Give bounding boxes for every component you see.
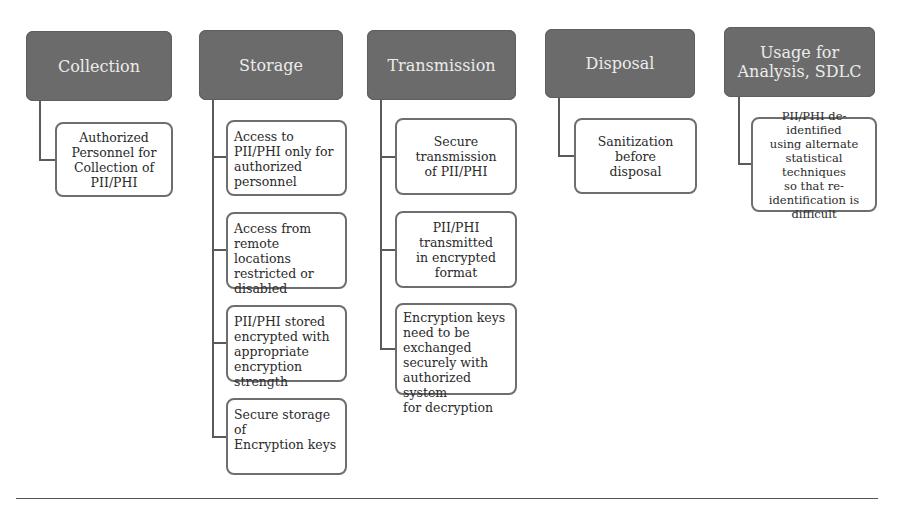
connector-disposal-vertical [558,98,560,157]
collection-item-authorized-personnel: Authorized Personnel for Collection of P… [55,122,173,197]
connector-transmission-3 [380,348,396,350]
connector-transmission-vertical [380,100,382,350]
header-storage: Storage [199,30,343,100]
storage-item-access-authorized: Access to PII/PHI only for authorized pe… [226,120,347,196]
bottom-divider [16,498,878,499]
transmission-item-encrypted-format: PII/PHI transmitted in encrypted format [395,211,517,288]
connector-storage-4 [212,436,227,438]
header-usage-analysis-sdlc: Usage for Analysis, SDLC [724,27,875,97]
storage-item-remote-access: Access from remote locations restricted … [226,212,347,289]
connector-storage-1 [212,156,227,158]
header-transmission: Transmission [367,30,516,100]
connector-collection-1 [39,159,56,161]
header-disposal-label: Disposal [586,54,655,73]
header-collection-label: Collection [58,57,140,76]
header-usage-label: Usage for Analysis, SDLC [738,43,862,81]
header-transmission-label: Transmission [387,56,495,75]
connector-usage-1 [738,163,752,165]
header-collection: Collection [26,31,172,101]
connector-usage-vertical [738,97,740,165]
connector-storage-vertical [212,100,214,438]
storage-item-encrypted-storage: PII/PHI stored encrypted with appropriat… [226,305,347,382]
connector-storage-3 [212,342,227,344]
header-disposal: Disposal [545,29,695,98]
pii-phi-lifecycle-diagram: Collection Authorized Personnel for Coll… [0,0,905,510]
transmission-item-secure: Secure transmission of PII/PHI [395,118,517,195]
header-storage-label: Storage [239,56,303,75]
connector-disposal-1 [558,155,575,157]
connector-storage-2 [212,249,227,251]
connector-transmission-2 [380,249,396,251]
connector-collection-vertical [39,101,41,161]
storage-item-key-storage: Secure storage of Encryption keys [226,398,347,475]
usage-item-de-identification: PII/PHI de-identified using alternate st… [751,117,877,212]
disposal-item-sanitization: Sanitization before disposal [574,118,697,194]
transmission-item-key-exchange: Encryption keys need to be exchanged sec… [395,303,517,395]
connector-transmission-1 [380,156,396,158]
